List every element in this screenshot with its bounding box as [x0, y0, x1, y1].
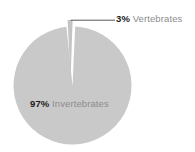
slice-label-invertebrates: 97% Invertebrates	[30, 99, 109, 109]
slice-percent-vertebrates: 3%	[116, 13, 130, 24]
slice-name-invertebrates: Invertebrates	[52, 98, 109, 109]
slice-percent-invertebrates: 97%	[30, 98, 49, 109]
slice-label-vertebrates: 3% Vertebrates	[116, 14, 182, 24]
pie-chart: 3% Vertebrates 97% Invertebrates	[0, 0, 195, 152]
slice-name-vertebrates: Vertebrates	[133, 13, 183, 24]
